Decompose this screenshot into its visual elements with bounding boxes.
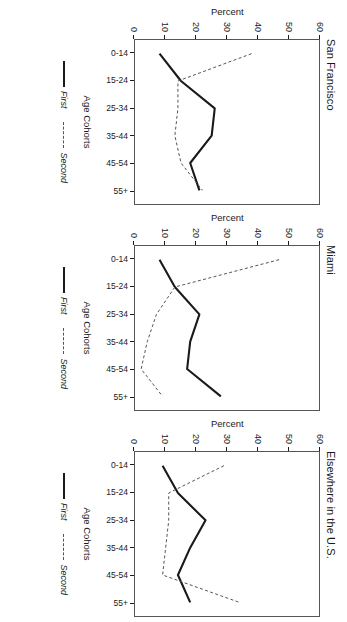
series-canvas <box>135 246 319 410</box>
legend-item[interactable]: Second <box>59 328 69 389</box>
x-tick-label: 15-24 <box>106 488 128 497</box>
y-tick-label: 60 <box>316 22 325 35</box>
y-axis-label: Percent <box>134 211 320 224</box>
x-tick-label: 25-34 <box>106 516 128 525</box>
legend-swatch-dashed-icon <box>64 534 65 560</box>
x-tick-mark <box>130 575 134 576</box>
legend-item[interactable]: First <box>59 267 69 315</box>
legend: FirstSecond <box>59 39 69 205</box>
x-axis-label: Age Cohorts <box>82 39 93 205</box>
chart-panel: Elsewhere in the U.S.Percent605040302010… <box>2 414 343 620</box>
x-tick-mark <box>130 397 134 398</box>
x-tick-mark <box>130 191 134 192</box>
x-axis-label: Age Cohorts <box>82 245 93 411</box>
x-tick-label: 45-54 <box>106 571 128 580</box>
series-line-second <box>141 260 279 397</box>
legend-label: Second <box>59 358 69 389</box>
x-axis-ticks: 0-1415-2425-3435-4445-5455+ <box>94 245 134 411</box>
y-tick-label: 20 <box>192 22 201 35</box>
y-tick-label: 20 <box>192 434 201 447</box>
x-tick: 0-14 <box>94 451 134 479</box>
legend-swatch-dashed-icon <box>64 122 65 148</box>
legend-item[interactable]: Second <box>59 534 69 595</box>
legend-item[interactable]: First <box>59 473 69 521</box>
x-tick-label: 25-34 <box>106 310 128 319</box>
x-tick-label: 35-44 <box>106 132 128 141</box>
x-tick-label: 45-54 <box>106 365 128 374</box>
x-tick: 35-44 <box>94 328 134 356</box>
panel-title: Miami <box>325 211 337 411</box>
x-tick: 55+ <box>94 383 134 411</box>
x-tick-label: 25-34 <box>106 104 128 113</box>
legend-item[interactable]: Second <box>59 122 69 183</box>
x-tick: 15-24 <box>94 479 134 507</box>
x-axis-ticks: 0-1415-2425-3435-4445-5455+ <box>94 451 134 617</box>
legend-label: First <box>59 297 69 315</box>
series-canvas <box>135 40 319 204</box>
y-axis-label: Percent <box>134 417 320 430</box>
chart-panel: San FranciscoPercent60504030201000-1415-… <box>2 2 343 208</box>
legend-swatch-solid-icon <box>63 61 65 87</box>
y-axis-ticks: 6050403020100 <box>134 224 320 245</box>
x-tick-mark <box>130 52 134 53</box>
multi-panel-line-chart-figure: San FranciscoPercent60504030201000-1415-… <box>0 0 347 622</box>
y-tick-label: 30 <box>223 22 232 35</box>
legend: FirstSecond <box>59 245 69 411</box>
y-tick-label: 40 <box>254 22 263 35</box>
x-tick-label: 35-44 <box>106 544 128 553</box>
x-tick-mark <box>130 520 134 521</box>
plot-row: Percent6050403020100 <box>134 417 320 617</box>
figure-rotator: San FranciscoPercent60504030201000-1415-… <box>0 0 347 622</box>
x-tick: 35-44 <box>94 122 134 150</box>
x-tick: 0-14 <box>94 245 134 273</box>
y-tick-label: 10 <box>161 434 170 447</box>
plot-row: Percent6050403020100 <box>134 211 320 411</box>
legend-swatch-solid-icon <box>63 267 65 293</box>
x-tick-mark <box>130 314 134 315</box>
y-tick-label: 50 <box>285 434 294 447</box>
x-tick-label: 0-14 <box>111 49 128 58</box>
panel-title: Elsewhere in the U.S. <box>325 417 337 617</box>
y-tick-label: 0 <box>130 439 139 447</box>
x-tick: 25-34 <box>94 94 134 122</box>
legend-item[interactable]: First <box>59 61 69 109</box>
plot-area <box>134 451 320 617</box>
plot-area <box>134 245 320 411</box>
x-tick: 55+ <box>94 177 134 205</box>
x-tick-mark <box>130 492 134 493</box>
x-axis-label: Age Cohorts <box>82 451 93 617</box>
y-tick-label: 30 <box>223 228 232 241</box>
x-tick-mark <box>130 163 134 164</box>
x-tick-mark <box>130 547 134 548</box>
x-axis-ticks: 0-1415-2425-3435-4445-5455+ <box>94 39 134 205</box>
legend: FirstSecond <box>59 451 69 617</box>
x-tick-mark <box>130 108 134 109</box>
x-tick-mark <box>130 603 134 604</box>
x-tick-label: 0-14 <box>111 255 128 264</box>
x-tick-label: 0-14 <box>111 461 128 470</box>
y-axis-label: Percent <box>134 5 320 18</box>
y-tick-label: 10 <box>161 228 170 241</box>
x-tick-label: 15-24 <box>106 282 128 291</box>
x-tick-label: 35-44 <box>106 338 128 347</box>
plot-area <box>134 39 320 205</box>
x-tick-mark <box>130 80 134 81</box>
y-axis-ticks: 6050403020100 <box>134 430 320 451</box>
x-tick-label: 55+ <box>114 187 128 196</box>
y-tick-label: 50 <box>285 228 294 241</box>
chart-panel: MiamiPercent60504030201000-1415-2425-343… <box>2 208 343 414</box>
panel-title: San Francisco <box>325 5 337 205</box>
x-tick: 45-54 <box>94 150 134 178</box>
series-canvas <box>135 452 319 616</box>
y-tick-label: 30 <box>223 434 232 447</box>
x-tick-mark <box>130 341 134 342</box>
series-line-first <box>163 466 206 603</box>
x-tick: 25-34 <box>94 506 134 534</box>
x-tick-label: 55+ <box>114 599 128 608</box>
x-tick: 0-14 <box>94 39 134 67</box>
x-tick-label: 55+ <box>114 393 128 402</box>
legend-label: First <box>59 503 69 521</box>
y-axis-ticks: 6050403020100 <box>134 18 320 39</box>
x-tick: 45-54 <box>94 356 134 384</box>
x-tick: 15-24 <box>94 67 134 95</box>
